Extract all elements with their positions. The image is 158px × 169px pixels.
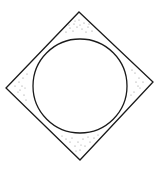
inscribed-circle — [33, 39, 127, 133]
inscribed-circle-diagram — [0, 0, 158, 169]
